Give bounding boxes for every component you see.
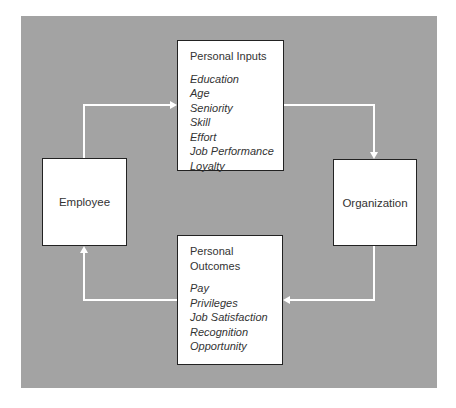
list-item: Education: [190, 72, 283, 87]
personal-outcomes-title-line1: Personal: [190, 244, 282, 259]
list-item: Privileges: [190, 296, 282, 311]
arrow-head-left-icon: [283, 296, 290, 304]
employee-node: Employee: [42, 158, 127, 246]
personal-outcomes-title-line2: Outcomes: [190, 259, 282, 274]
personal-outcomes-node: Personal Outcomes Pay Privileges Job Sat…: [177, 235, 283, 365]
personal-inputs-title: Personal Inputs: [190, 49, 283, 64]
list-item: Age: [190, 86, 283, 101]
personal-inputs-node: Personal Inputs Education Age Seniority …: [177, 40, 284, 171]
list-item: Loyalty: [190, 159, 283, 174]
employee-label: Employee: [43, 196, 126, 208]
list-item: Skill: [190, 115, 283, 130]
arrow-head-up-icon: [80, 246, 88, 253]
list-item: Effort: [190, 130, 283, 145]
arrow-head-right-icon: [170, 101, 177, 109]
list-item: Pay: [190, 281, 282, 296]
list-item: Recognition: [190, 325, 282, 340]
organization-label: Organization: [334, 197, 416, 209]
personal-outcomes-list: Pay Privileges Job Satisfaction Recognit…: [190, 281, 282, 354]
list-item: Job Satisfaction: [190, 310, 282, 325]
arrow-head-down-icon: [370, 152, 378, 159]
list-item: Opportunity: [190, 339, 282, 354]
list-item: Seniority: [190, 101, 283, 116]
list-item: Job Performance: [190, 144, 283, 159]
organization-node: Organization: [333, 159, 417, 246]
personal-inputs-list: Education Age Seniority Skill Effort Job…: [190, 72, 283, 174]
